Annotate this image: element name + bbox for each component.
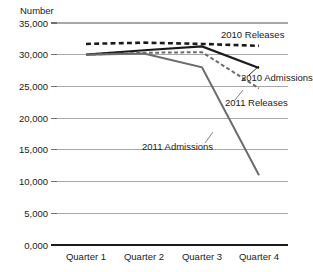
- y-tick-label: 5,000: [24, 208, 48, 219]
- x-tick-label-quarter-2: Quarter 2: [124, 251, 164, 262]
- series-label-2011-admissions: 2011 Admissions: [142, 141, 213, 152]
- gridlines: [57, 23, 288, 213]
- series-line-2010-admissions: [86, 46, 259, 68]
- series-line-2010-releases: [86, 43, 259, 46]
- line-chart: Number 35,000 30,000 25,000: [0, 0, 313, 272]
- y-tick-label: 35,000: [19, 18, 48, 29]
- series-label-2011-releases: 2011 Releases: [225, 97, 288, 108]
- x-axis-tick-labels: Quarter 1 Quarter 2 Quarter 3 Quarter 4: [66, 251, 279, 262]
- y-tick-label: 0,000: [24, 240, 48, 251]
- series-label-2010-admissions: 2010 Admissions: [241, 72, 313, 83]
- y-axis-title: Number: [20, 5, 54, 16]
- y-tick-label: 20,000: [19, 113, 48, 124]
- y-tick-label: 15,000: [19, 144, 48, 155]
- x-tick-label-quarter-4: Quarter 4: [239, 251, 279, 262]
- x-tick-label-quarter-1: Quarter 1: [66, 251, 106, 262]
- x-tick-label-quarter-3: Quarter 3: [182, 251, 222, 262]
- y-axis-ticks: [51, 23, 57, 213]
- y-tick-label: 30,000: [19, 49, 48, 60]
- chart-container: Number 35,000 30,000 25,000: [0, 0, 313, 272]
- data-series-layer: [86, 43, 259, 176]
- series-label-2010-releases: 2010 Releases: [221, 29, 285, 40]
- series-annotations: 2010 Releases2010 Admissions2011 Release…: [142, 29, 313, 152]
- y-axis-tick-labels: 35,000 30,000 25,000 20,000 15,000 10,00…: [19, 18, 48, 251]
- y-tick-label: 10,000: [19, 176, 48, 187]
- y-tick-label: 25,000: [19, 81, 48, 92]
